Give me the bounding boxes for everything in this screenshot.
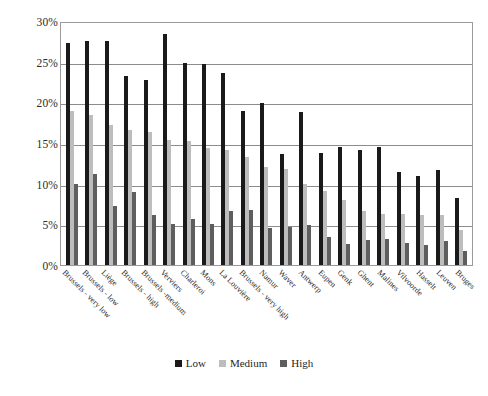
bar-group: [159, 23, 178, 265]
y-axis-tick-label: 15%: [37, 138, 58, 150]
bar-high: [463, 251, 467, 265]
bar-high: [444, 241, 448, 265]
bar-high: [327, 237, 331, 265]
bar-group: [62, 23, 81, 265]
bar-high: [405, 243, 409, 265]
bars-layer: [61, 23, 472, 265]
bar-high: [74, 184, 78, 265]
bar-high: [346, 244, 350, 265]
legend-label: Medium: [230, 358, 267, 369]
bar-group: [81, 23, 100, 265]
bar-group: [257, 23, 276, 265]
bar-high: [366, 240, 370, 265]
bar-high: [210, 224, 214, 265]
legend-item: Low: [175, 358, 206, 369]
bar-high: [307, 225, 311, 265]
bar-group: [218, 23, 237, 265]
bar-high: [229, 211, 233, 265]
y-axis-tick-label: 25%: [37, 57, 58, 69]
bar-high: [424, 245, 428, 265]
plot-wrapper: 30%25%20%15%10%5%0% Brussels - very lowB…: [0, 0, 488, 300]
bar-group: [198, 23, 217, 265]
y-axis-tick-label: 10%: [37, 179, 58, 191]
bar-group: [120, 23, 139, 265]
bar-group: [101, 23, 120, 265]
bar-high: [249, 210, 253, 265]
bar-high: [268, 228, 272, 265]
legend-label: Low: [186, 358, 206, 369]
bar-group: [354, 23, 373, 265]
bar-high: [152, 215, 156, 265]
legend-item: Medium: [219, 358, 267, 369]
bar-high: [132, 192, 136, 265]
bar-high: [171, 224, 175, 265]
y-axis-tick-label: 5%: [42, 219, 58, 231]
bar-group: [374, 23, 393, 265]
y-axis-tick-label: 20%: [37, 97, 58, 109]
bar-group: [393, 23, 412, 265]
plot-area: [60, 22, 473, 266]
bar-group: [179, 23, 198, 265]
legend: LowMediumHigh: [0, 358, 488, 369]
bar-group: [276, 23, 295, 265]
legend-swatch-icon: [280, 360, 287, 367]
bar-high: [93, 174, 97, 265]
bar-group: [451, 23, 470, 265]
bar-group: [296, 23, 315, 265]
x-axis: Brussels - very lowBrussels - lowLiègeBr…: [60, 268, 473, 358]
bar-group: [140, 23, 159, 265]
bar-high: [113, 206, 117, 265]
legend-swatch-icon: [175, 360, 182, 367]
x-axis-tick-label: Bruges: [454, 268, 477, 291]
legend-swatch-icon: [219, 360, 226, 367]
bar-group: [412, 23, 431, 265]
bar-group: [315, 23, 334, 265]
bar-high: [191, 219, 195, 265]
legend-item: High: [280, 358, 313, 369]
bar-group: [335, 23, 354, 265]
x-axis-tick-label: Waver: [277, 268, 299, 290]
bar-high: [385, 239, 389, 265]
bar-chart: 30%25%20%15%10%5%0% Brussels - very lowB…: [0, 0, 488, 396]
bar-high: [288, 227, 292, 265]
x-axis-tick-label: Genk: [336, 268, 355, 287]
bar-group: [432, 23, 451, 265]
x-axis-tick-label: Ghent: [355, 268, 376, 289]
y-axis: 30%25%20%15%10%5%0%: [14, 18, 58, 266]
legend-label: High: [291, 358, 313, 369]
bar-group: [237, 23, 256, 265]
y-axis-tick-label: 0%: [42, 260, 58, 272]
y-axis-tick-label: 30%: [37, 16, 58, 28]
